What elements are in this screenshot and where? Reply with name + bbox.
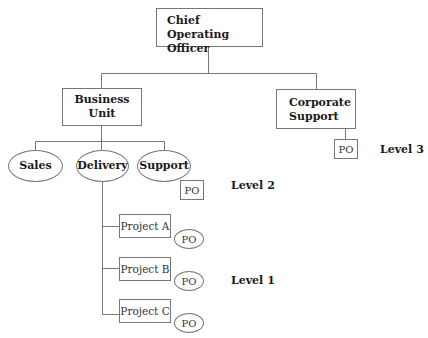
- project-c-label: Project C: [120, 305, 169, 318]
- business-unit-label: Business Unit: [63, 93, 141, 121]
- coo-label-line2: Officer: [167, 42, 262, 56]
- support-ellipse: Support: [137, 150, 191, 182]
- support-label: Support: [139, 159, 189, 173]
- project-b-box: Project B: [119, 257, 171, 281]
- coo-label-line1: Chief Operating: [167, 14, 262, 42]
- project-b-label: Project B: [120, 263, 169, 276]
- level-3-label: Level 3: [380, 143, 424, 156]
- project-c-box: Project C: [119, 299, 171, 323]
- delivery-ellipse: Delivery: [76, 150, 129, 182]
- support-po-box: PO: [180, 180, 204, 200]
- level-1-label: Level 1: [231, 274, 275, 287]
- delivery-label: Delivery: [77, 159, 127, 173]
- project-a-label: Project A: [121, 220, 170, 233]
- corporate-support-line2: Support: [289, 110, 355, 124]
- project-a-po-ellipse: PO: [174, 229, 204, 249]
- corporate-support-line1: Corporate: [289, 96, 355, 110]
- business-unit-box: Business Unit: [62, 88, 142, 126]
- sales-label: Sales: [19, 159, 51, 173]
- project-c-po-ellipse: PO: [174, 313, 204, 333]
- corporate-support-box: Corporate Support: [276, 89, 356, 129]
- project-b-po-ellipse: PO: [174, 271, 204, 291]
- chief-operating-officer-box: Chief Operating Officer: [156, 8, 263, 47]
- sales-ellipse: Sales: [8, 150, 63, 182]
- corporate-po-box: PO: [334, 139, 358, 159]
- level-2-label: Level 2: [231, 179, 275, 192]
- project-a-box: Project A: [119, 214, 171, 238]
